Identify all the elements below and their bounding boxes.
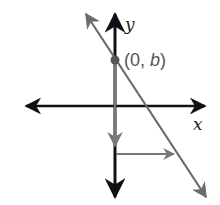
point-label: (0, b) <box>124 50 166 70</box>
point-label-var: b <box>150 50 160 70</box>
y-axis-label: y <box>124 14 135 34</box>
point-label-close: ) <box>160 50 166 70</box>
x-axis-label: x <box>193 114 203 134</box>
coordinate-diagram: y x (0, b) <box>0 0 220 205</box>
y-intercept-point <box>111 56 120 65</box>
point-label-open: (0, <box>124 50 150 70</box>
